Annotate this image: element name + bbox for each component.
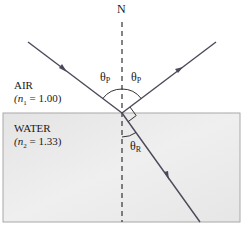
incident-arrow-icon	[59, 64, 67, 72]
water-medium-name: WATER	[14, 122, 61, 135]
diagram-canvas	[0, 0, 243, 230]
water-label: WATER (n2 = 1.33)	[14, 122, 61, 153]
reflected-angle-arc	[122, 89, 141, 99]
refracted-angle-label: θR	[130, 139, 141, 154]
air-index: (n1 = 1.00)	[14, 92, 61, 110]
normal-label: N	[117, 2, 126, 17]
incident-angle-label: θP	[100, 70, 110, 85]
air-medium-name: AIR	[14, 79, 61, 92]
incident-angle-arc	[103, 89, 122, 99]
air-label: AIR (n1 = 1.00)	[14, 79, 61, 110]
water-index: (n2 = 1.33)	[14, 135, 61, 153]
reflected-angle-label: θP	[131, 70, 141, 85]
